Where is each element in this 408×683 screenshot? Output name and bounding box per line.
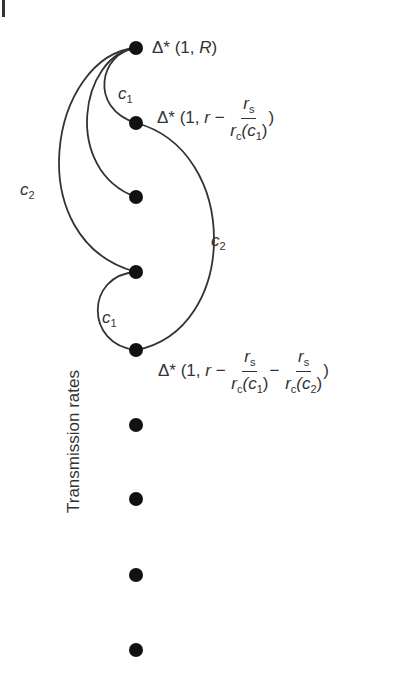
node-3 bbox=[129, 190, 143, 204]
edge-label-sub: 1 bbox=[127, 93, 133, 105]
axis-label: Transmission rates bbox=[64, 370, 84, 513]
node-6 bbox=[129, 418, 143, 432]
node-2-label-prefix: Δ* (1, bbox=[157, 108, 204, 127]
node-7 bbox=[129, 492, 143, 506]
node-1-label-prefix: Δ* (1, bbox=[152, 38, 199, 57]
frac-num-sub: s bbox=[250, 356, 256, 368]
node-8 bbox=[129, 568, 143, 582]
node-5-label-minus: − bbox=[211, 361, 230, 380]
edge-label-var: c bbox=[211, 231, 220, 250]
node-5-label: Δ* (1, r − rs rc(c1) − rs rc(c2) ) bbox=[158, 348, 329, 395]
node-4 bbox=[129, 265, 143, 279]
edge-label-sub: 1 bbox=[111, 317, 117, 329]
edge-label-sub: 2 bbox=[29, 189, 35, 201]
edge-label-c1-bottom: c1 bbox=[102, 308, 117, 329]
node-5-fraction-1: rs rc(c1) bbox=[231, 348, 268, 395]
frac-num-sub: s bbox=[249, 103, 255, 115]
edge-n1-n3 bbox=[87, 48, 136, 197]
node-5-label-suffix: ) bbox=[323, 361, 329, 380]
frac-den-arg: (c bbox=[296, 374, 310, 393]
node-5-label-prefix: Δ* (1, bbox=[158, 361, 205, 380]
edge-label-c1-top: c1 bbox=[118, 84, 133, 105]
node-5-label-minus2: − bbox=[269, 361, 279, 380]
frac-den-arg-close: ) bbox=[263, 374, 269, 393]
node-5-fraction-2: rs rc(c2) bbox=[285, 348, 322, 395]
node-1 bbox=[129, 41, 143, 55]
node-2-label: Δ* (1, r − rs rc(c1) ) bbox=[157, 95, 274, 142]
node-9 bbox=[129, 643, 143, 657]
edge-label-var: c bbox=[20, 180, 29, 199]
node-2-label-suffix: ) bbox=[268, 108, 274, 127]
edge-n1-n4 bbox=[59, 48, 136, 272]
node-2-label-minus: − bbox=[210, 108, 229, 127]
edge-n2-n5 bbox=[136, 123, 214, 350]
node-1-label-var: R bbox=[199, 38, 211, 57]
node-2-fraction: rs rc(c1) bbox=[230, 95, 267, 142]
frac-den-arg-close: ) bbox=[262, 121, 268, 140]
node-5 bbox=[129, 343, 143, 357]
edge-label-sub: 2 bbox=[220, 240, 226, 252]
edge-label-c2-right: c2 bbox=[211, 231, 226, 252]
frac-num-sub: s bbox=[304, 356, 310, 368]
node-2 bbox=[129, 116, 143, 130]
frac-den-arg: (c bbox=[242, 374, 256, 393]
node-1-label: Δ* (1, R) bbox=[152, 39, 217, 56]
frac-den-arg: (c bbox=[241, 121, 255, 140]
node-1-label-suffix: ) bbox=[212, 38, 218, 57]
edge-label-var: c bbox=[118, 84, 127, 103]
edge-label-c2-left: c2 bbox=[20, 180, 35, 201]
edge-label-var: c bbox=[102, 308, 111, 327]
frac-den-arg-close: ) bbox=[317, 374, 323, 393]
